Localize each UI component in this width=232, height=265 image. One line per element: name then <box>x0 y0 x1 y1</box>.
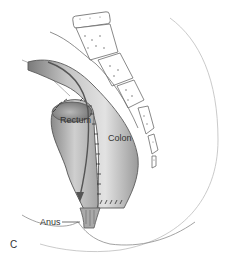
label-rectum: Rectum <box>60 116 91 125</box>
label-anus: Anus <box>40 218 61 227</box>
label-colon: Colon <box>108 134 132 143</box>
panel-letter: C <box>10 240 17 250</box>
